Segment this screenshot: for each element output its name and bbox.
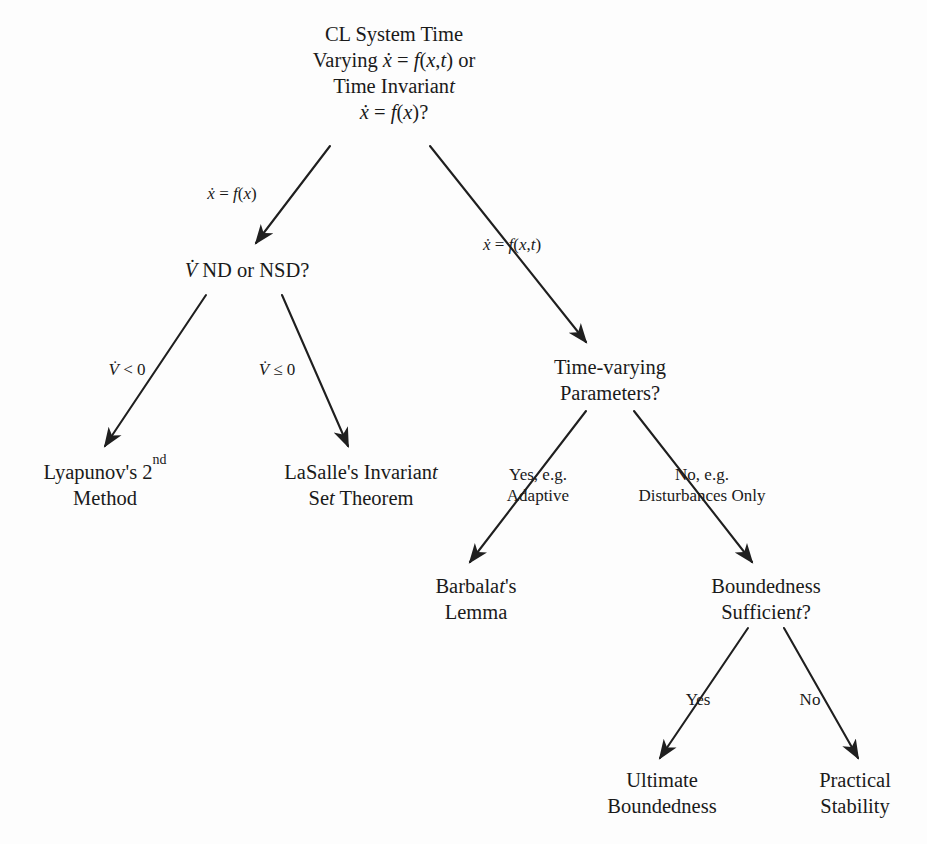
edges-layer (105, 146, 858, 758)
lasalle-invariant-set-theorem-node-line: LaSalle's Invariant (284, 461, 439, 483)
barbalats-lemma-node: Barbalat'sLemma (435, 575, 516, 623)
diagram-page: ẋ = f(x)ẋ = f(x,t)V̇ < 0V̇ ≤ 0Yes, e.g… (0, 0, 927, 844)
barbalats-lemma-node-line: Barbalat's (435, 575, 516, 597)
ultimate-boundedness-node-line: Ultimate (626, 769, 698, 791)
practical-stability-node: PracticalStability (819, 769, 891, 818)
vdot-nd-or-nsd-node: V̇ ND or NSD? (185, 259, 310, 281)
edge-tvp-to-barbalat-label: Yes, e.g.Adaptive (507, 464, 569, 504)
edge-boundedness-to-practical-stability-label-line: No (800, 690, 821, 709)
cl-system-time-varying-node-line: ẋ = f(x)? (359, 101, 429, 124)
edge-tvp-to-boundedness-sufficient-label: No, e.g.Disturbances Only (638, 464, 766, 504)
edge-root-to-vdot-nd-nsd (256, 146, 330, 243)
edge-root-to-vdot-nd-nsd-label: ẋ = f(x) (206, 184, 256, 203)
barbalats-lemma-node-line: Lemma (445, 601, 508, 623)
time-varying-parameters-node-line: Parameters? (560, 382, 660, 404)
edge-root-to-time-varying-parameters-label: ẋ = f(x,t) (482, 235, 541, 254)
edge-tvp-to-boundedness-sufficient-label-line: Disturbances Only (638, 485, 766, 504)
practical-stability-node-line: Stability (820, 795, 890, 818)
lyapunov-second-method-node-line: Method (73, 487, 137, 509)
edge-tvp-to-barbalat-label-line: Yes, e.g. (509, 464, 567, 483)
edge-vdot-to-lyapunov-label-line: V̇ < 0 (109, 360, 146, 379)
edge-tvp-to-boundedness-sufficient-label-line: No, e.g. (675, 464, 729, 483)
cl-system-time-varying-node-line: Varying ẋ = f(x,t) or (313, 49, 476, 72)
ultimate-boundedness-node: UltimateBoundedness (607, 769, 716, 817)
edge-tvp-to-barbalat-label-line: Adaptive (507, 485, 569, 504)
boundedness-sufficient-node-line: Boundedness (711, 575, 820, 597)
cl-system-time-varying-node-line: Time Invariant (333, 75, 456, 97)
lasalle-invariant-set-theorem-node-line: Set Theorem (309, 487, 414, 509)
time-varying-parameters-node: Time-varyingParameters? (554, 356, 666, 404)
lyapunov-second-method-node-line: Lyapunov's 2nd (44, 452, 167, 484)
vdot-nd-or-nsd-node-line: V̇ ND or NSD? (185, 259, 310, 281)
practical-stability-node-line: Practical (819, 769, 891, 791)
decision-tree-diagram: ẋ = f(x)ẋ = f(x,t)V̇ < 0V̇ ≤ 0Yes, e.g… (0, 0, 927, 844)
lasalle-invariant-set-theorem-node: LaSalle's InvariantSet Theorem (284, 461, 439, 509)
edge-boundedness-to-practical-stability-label: No (800, 690, 821, 709)
boundedness-sufficient-node-line: Sufficient? (721, 601, 811, 623)
edge-root-to-vdot-nd-nsd-label-line: ẋ = f(x) (206, 184, 256, 203)
time-varying-parameters-node-line: Time-varying (554, 356, 666, 379)
edge-root-to-time-varying-parameters-label-line: ẋ = f(x,t) (482, 235, 541, 254)
cl-system-time-varying-node: CL System TimeVarying ẋ = f(x,t) orTime… (313, 23, 476, 124)
edge-boundedness-to-ultimate-boundedness-label: Yes (686, 690, 711, 709)
edge-vdot-to-lasalle-label-line: V̇ ≤ 0 (259, 360, 296, 379)
ultimate-boundedness-node-line: Boundedness (607, 795, 716, 817)
nodes-layer: CL System TimeVarying ẋ = f(x,t) orTime… (44, 23, 892, 818)
edge-vdot-to-lasalle-label: V̇ ≤ 0 (259, 360, 296, 379)
cl-system-time-varying-node-line: CL System Time (325, 23, 463, 46)
edge-boundedness-to-practical-stability (784, 628, 858, 758)
edge-boundedness-to-ultimate-boundedness-label-line: Yes (686, 690, 711, 709)
edge-vdot-to-lyapunov-label: V̇ < 0 (109, 360, 146, 379)
lyapunov-second-method-node: Lyapunov's 2ndMethod (44, 452, 167, 509)
boundedness-sufficient-node: BoundednessSufficient? (711, 575, 820, 623)
